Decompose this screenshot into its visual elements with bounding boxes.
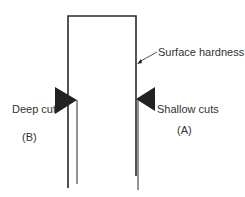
figure-a-label: (A): [177, 124, 192, 136]
hardness-diagram: Surface hardness Deep cut Shallow cuts (…: [0, 0, 245, 197]
figure-b-label: (B): [22, 131, 37, 143]
shallow-cuts-label: Shallow cuts: [157, 103, 219, 115]
deep-cut-tool-icon: [55, 87, 77, 114]
leader-arrowhead-icon: [137, 59, 142, 64]
workpiece-outline: [68, 16, 136, 188]
deep-cut-label: Deep cut: [12, 103, 56, 115]
shallow-cut-tool-icon: [136, 87, 155, 111]
surface-hardness-leader: [139, 52, 157, 62]
surface-hardness-label: Surface hardness: [158, 46, 245, 58]
